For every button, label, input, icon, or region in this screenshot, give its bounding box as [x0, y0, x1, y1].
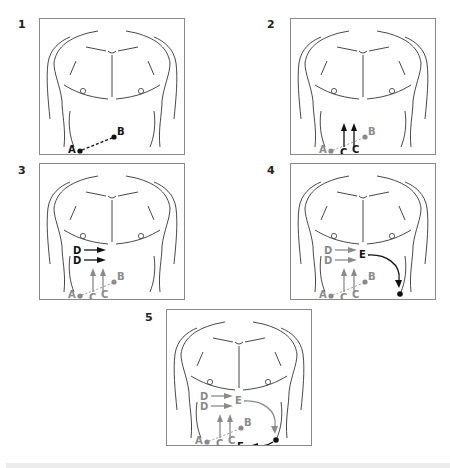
label-b: B	[117, 271, 125, 282]
right-clavicle	[118, 192, 138, 196]
arrow-d1-head	[348, 247, 357, 253]
left-arm-outline	[47, 37, 70, 119]
point-a-marker	[328, 148, 333, 153]
panel-step-1: AB	[39, 18, 185, 155]
right-clavicle	[369, 192, 389, 196]
left-arm-outline	[298, 182, 321, 264]
point-a-marker	[204, 439, 209, 444]
left-nipple	[207, 379, 212, 384]
torso-outline	[47, 176, 177, 292]
neck-notch	[108, 196, 116, 198]
neck-notch	[235, 342, 243, 344]
left-clavicle	[86, 192, 106, 196]
point-b-marker	[238, 425, 243, 430]
arrow-f-head	[249, 443, 258, 445]
label-c1: C	[340, 292, 347, 299]
step-number-1: 1	[18, 18, 26, 31]
right-oblique	[150, 256, 155, 292]
label-b: B	[244, 417, 252, 428]
torso-diagram: ABCCDDE	[291, 164, 435, 299]
left-pec-line	[191, 376, 235, 390]
label-a: A	[68, 144, 76, 154]
left-pec-line	[64, 230, 108, 244]
label-d2: D	[324, 255, 332, 266]
point-a-marker	[328, 293, 333, 298]
label-a: A	[319, 289, 327, 299]
left-pec-line	[64, 85, 108, 99]
arrow-c2-head	[351, 123, 357, 131]
label-a: A	[68, 289, 76, 299]
arrow-c1-head	[217, 414, 223, 422]
right-ribs	[399, 61, 405, 75]
point-b-marker	[362, 134, 367, 139]
left-oblique	[320, 111, 325, 147]
incision-f	[259, 442, 273, 445]
step-number-5: 5	[145, 311, 153, 324]
arrow-c1-head	[90, 268, 96, 276]
neck-notch	[108, 51, 116, 53]
label-e: E	[359, 249, 366, 260]
point-b-marker	[111, 134, 116, 139]
label-c1: C	[340, 147, 347, 154]
point-end-marker	[397, 291, 403, 297]
left-ribs	[197, 352, 203, 366]
right-oblique	[277, 402, 282, 438]
arrow-e-head	[271, 426, 278, 434]
right-nipple	[389, 233, 394, 238]
left-arm-outline	[298, 37, 321, 119]
panel-step-4: ABCCDDE	[290, 163, 436, 300]
left-ribs	[321, 206, 327, 220]
label-b: B	[368, 271, 376, 282]
arrow-d1-head	[97, 247, 106, 253]
left-ribs	[321, 61, 327, 75]
torso-diagram: ABCCDDEF	[167, 310, 311, 445]
label-c2: C	[352, 144, 359, 154]
right-ribs	[148, 61, 154, 75]
panel-step-2: ABCC	[290, 18, 436, 155]
right-arm-outline	[405, 37, 428, 119]
right-arm-outline	[405, 182, 428, 264]
right-nipple	[138, 233, 143, 238]
torso-diagram: AB	[40, 19, 184, 154]
right-pec-line	[116, 85, 160, 99]
panel-step-3: ABCCDD	[39, 163, 185, 300]
arrow-d2-head	[97, 257, 106, 263]
left-pec-line	[315, 230, 359, 244]
step-number-4: 4	[267, 164, 275, 177]
right-arm-outline	[154, 37, 177, 119]
torso-outline	[47, 31, 177, 147]
arrow-c1-head	[341, 123, 347, 131]
arrow-d2-head	[348, 257, 357, 263]
left-arm-outline	[174, 328, 197, 410]
left-oblique	[69, 111, 74, 147]
bottom-band	[6, 463, 450, 468]
arrow-c2-head	[227, 414, 233, 422]
right-arm-outline	[154, 182, 177, 264]
arrow-d1-head	[224, 393, 233, 399]
torso-outline	[174, 322, 304, 438]
right-oblique	[401, 256, 406, 292]
right-ribs	[275, 352, 281, 366]
right-oblique	[150, 111, 155, 147]
point-b-marker	[362, 279, 367, 284]
right-pec-line	[116, 230, 160, 244]
label-c2: C	[228, 435, 235, 445]
right-nipple	[265, 379, 270, 384]
right-arm-outline	[281, 328, 304, 410]
left-clavicle	[86, 47, 106, 51]
right-pec-line	[243, 376, 287, 390]
label-c2: C	[352, 289, 359, 299]
label-b: B	[117, 126, 125, 137]
right-nipple	[389, 88, 394, 93]
torso-diagram: ABCCDD	[40, 164, 184, 299]
step-number-2: 2	[267, 18, 275, 31]
line-a-to-b	[82, 138, 112, 150]
right-pec-line	[367, 85, 411, 99]
neck-notch	[359, 51, 367, 53]
left-clavicle	[213, 338, 233, 342]
point-end-marker	[273, 437, 279, 443]
point-a-marker	[77, 293, 82, 298]
left-ribs	[70, 61, 76, 75]
right-clavicle	[245, 338, 265, 342]
right-clavicle	[369, 47, 389, 51]
